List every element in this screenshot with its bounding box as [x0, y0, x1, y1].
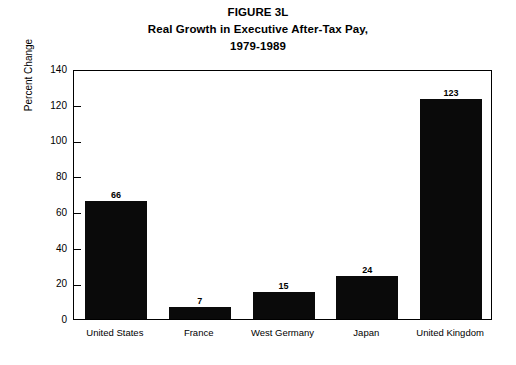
bar-value-label: 24 — [336, 265, 398, 275]
y-axis-title: Percent Change — [22, 10, 36, 140]
bar — [253, 292, 315, 319]
y-axis-tick-label: 0 — [25, 315, 67, 325]
bar — [420, 99, 482, 319]
y-axis-tick-label: 20 — [25, 279, 67, 289]
chart-title-block: FIGURE 3L Real Growth in Executive After… — [0, 4, 516, 55]
bar-value-label: 15 — [253, 281, 315, 291]
bar-value-label: 7 — [169, 296, 231, 306]
bar-value-label: 123 — [420, 88, 482, 98]
y-axis-tick-label: 40 — [25, 244, 67, 254]
y-axis-tick — [74, 177, 81, 178]
chart-title-line-2: Real Growth in Executive After-Tax Pay, — [0, 21, 516, 38]
y-axis-tick — [74, 249, 81, 250]
plot-inner: 6671524123 — [74, 71, 491, 319]
y-axis-tick-label: 80 — [25, 172, 67, 182]
x-axis-category-label: United Kingdom — [390, 327, 510, 338]
y-axis-tick-label: 140 — [25, 65, 67, 75]
y-axis-tick — [74, 213, 81, 214]
y-axis-title-text: Percent Change — [22, 10, 36, 140]
y-axis-tick — [74, 142, 81, 143]
plot-area: 6671524123 — [73, 70, 492, 320]
y-axis-tick-label: 120 — [25, 101, 67, 111]
chart-title-line-1: FIGURE 3L — [0, 4, 516, 21]
figure-3l-chart: FIGURE 3L Real Growth in Executive After… — [0, 0, 516, 365]
bar — [336, 276, 398, 319]
y-axis-tick-label: 60 — [25, 208, 67, 218]
y-axis-tick-label: 100 — [25, 136, 67, 146]
y-axis-tick — [74, 106, 81, 107]
bar — [85, 201, 147, 319]
bar — [169, 307, 231, 320]
bar-value-label: 66 — [85, 190, 147, 200]
y-axis-tick — [74, 285, 81, 286]
chart-title-line-3: 1979-1989 — [0, 38, 516, 55]
